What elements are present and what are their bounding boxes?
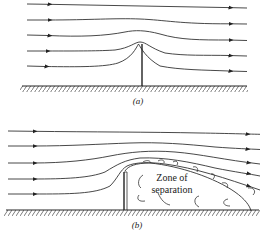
panel-a-streamlines [27,4,247,72]
streamline [27,4,247,8]
streamline [8,151,260,164]
panel-b: Zone of separation (b) [4,131,260,230]
zone-label-line2: separation [151,184,192,195]
eddy-icon [195,196,199,207]
zone-label-line1: Zone of [156,172,188,183]
streamline [27,31,247,41]
streamline [8,163,260,194]
panel-b-ground [4,210,260,216]
panel-b-label: (b) [132,220,143,230]
streamline [27,42,247,56]
streamline [8,158,260,179]
panel-a: (a) [20,4,248,106]
flow-diagram: (a) [0,0,277,243]
streamline [27,44,247,72]
streamline [8,143,260,150]
eddy-icon [248,188,255,195]
eddy-icon [138,195,145,201]
eddy-icon [173,161,178,165]
panel-b-streamlines [8,131,260,211]
panel-a-label: (a) [133,96,144,106]
panel-a-ground [20,86,248,92]
eddy-icon [139,175,143,188]
streamline [8,131,260,134]
streamline [27,19,247,24]
fence-obstacle [124,172,127,210]
eddy-icon [158,160,164,163]
eddy-icon [224,199,230,206]
